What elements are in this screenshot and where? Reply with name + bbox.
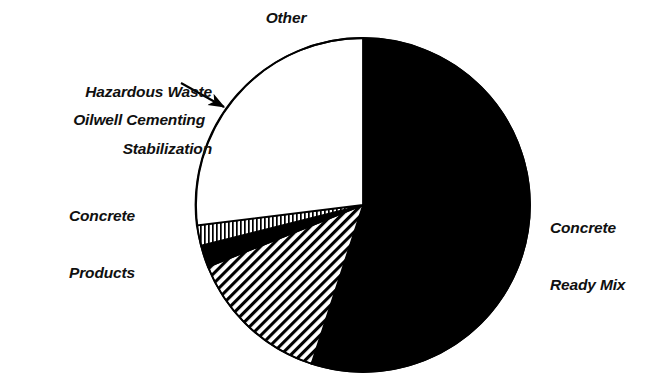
label-concrete-products: Concrete Products xyxy=(69,168,219,320)
pie-slice-other[interactable] xyxy=(196,38,363,225)
label-oilwell-cementing: Oilwell Cementing xyxy=(0,110,205,129)
label-concrete-products-line2: Products xyxy=(69,263,219,282)
pie-chart-figure: Other Hazardous Waste Stabilization Oilw… xyxy=(0,0,663,390)
label-concrete-products-line1: Concrete xyxy=(69,206,219,225)
label-other: Other xyxy=(246,8,326,27)
label-hazardous-waste-stabilization-line2: Stabilization xyxy=(0,139,212,158)
label-concrete-ready-mix-line1: Concrete xyxy=(550,218,663,237)
label-concrete-ready-mix-line2: Ready Mix xyxy=(550,275,663,294)
label-concrete-ready-mix: Concrete Ready Mix xyxy=(550,180,663,332)
label-hazardous-waste-stabilization-line1: Hazardous Waste xyxy=(0,82,212,101)
